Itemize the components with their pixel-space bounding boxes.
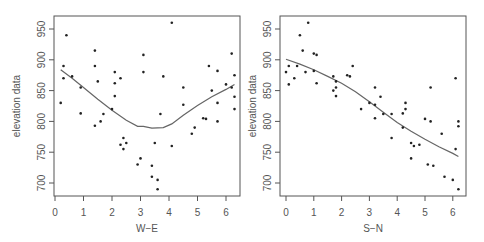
data-point bbox=[62, 65, 65, 68]
y-tick-label: 700 bbox=[262, 174, 273, 191]
data-point bbox=[216, 102, 219, 105]
data-point bbox=[360, 108, 363, 111]
data-point bbox=[429, 86, 432, 89]
y-tick-label: 800 bbox=[262, 113, 273, 130]
data-point bbox=[351, 65, 354, 68]
data-point bbox=[374, 86, 377, 89]
data-point bbox=[390, 137, 393, 140]
data-point bbox=[65, 34, 68, 37]
x-tick-label: 2 bbox=[339, 207, 345, 218]
data-point bbox=[410, 142, 413, 145]
data-point bbox=[315, 82, 318, 85]
data-point bbox=[216, 120, 219, 123]
data-point bbox=[94, 124, 97, 127]
data-point bbox=[233, 108, 236, 111]
data-point bbox=[335, 80, 338, 83]
data-point bbox=[216, 70, 219, 73]
data-point bbox=[390, 113, 393, 116]
data-point bbox=[454, 77, 457, 80]
data-point bbox=[191, 132, 194, 135]
data-point bbox=[335, 86, 338, 89]
data-point bbox=[136, 163, 139, 166]
data-point bbox=[142, 54, 145, 57]
data-point bbox=[114, 95, 117, 98]
y-tick-label: 950 bbox=[36, 20, 47, 37]
data-point bbox=[313, 52, 316, 55]
x-tick-label: 3 bbox=[138, 207, 144, 218]
data-point bbox=[452, 179, 455, 182]
data-point bbox=[114, 82, 117, 85]
data-point bbox=[457, 188, 460, 191]
data-point bbox=[171, 145, 174, 148]
data-point bbox=[94, 49, 97, 52]
x-tick-label: 4 bbox=[394, 207, 400, 218]
data-point bbox=[79, 86, 82, 89]
smoothing-line bbox=[61, 70, 235, 129]
data-point bbox=[162, 75, 165, 78]
data-point bbox=[225, 83, 228, 86]
data-point bbox=[332, 75, 335, 78]
smoothing-line bbox=[286, 59, 458, 156]
y-tick-label: 750 bbox=[262, 143, 273, 160]
data-point bbox=[443, 176, 446, 179]
data-point bbox=[301, 49, 304, 52]
data-point bbox=[182, 104, 185, 107]
data-point bbox=[111, 108, 114, 111]
x-tick-label: 4 bbox=[166, 207, 172, 218]
data-point bbox=[349, 75, 352, 78]
data-point bbox=[413, 145, 416, 148]
data-point bbox=[379, 96, 382, 99]
x-tick-label: 1 bbox=[81, 207, 87, 218]
plot-frame bbox=[280, 16, 466, 196]
data-point bbox=[432, 165, 435, 168]
data-point bbox=[230, 86, 233, 89]
chart-figure: 0123456700750800850900950W−Eelevation da… bbox=[0, 0, 484, 242]
data-point bbox=[402, 126, 405, 129]
panel-s-n: 0123456700750800850900950S−Nelevation da… bbox=[247, 16, 466, 234]
data-point bbox=[315, 54, 318, 57]
data-point bbox=[457, 125, 460, 128]
data-point bbox=[122, 137, 125, 140]
y-tick-label: 800 bbox=[36, 113, 47, 130]
data-point bbox=[233, 74, 236, 77]
x-axis-label: S−N bbox=[363, 223, 383, 234]
data-point bbox=[418, 144, 421, 147]
x-tick-label: 0 bbox=[283, 207, 289, 218]
data-point bbox=[307, 22, 310, 25]
data-point bbox=[293, 77, 296, 80]
data-point bbox=[404, 102, 407, 105]
x-tick-label: 1 bbox=[311, 207, 317, 218]
x-axis-label: W−E bbox=[136, 223, 158, 234]
data-point bbox=[304, 71, 307, 74]
y-tick-label: 850 bbox=[262, 82, 273, 99]
x-tick-label: 6 bbox=[450, 207, 456, 218]
data-point bbox=[202, 117, 205, 120]
data-point bbox=[114, 71, 117, 74]
data-point bbox=[193, 126, 196, 129]
x-tick-label: 3 bbox=[367, 207, 373, 218]
y-axis-label: elevation data bbox=[247, 74, 258, 137]
data-point bbox=[404, 108, 407, 111]
data-point bbox=[424, 118, 427, 121]
data-point bbox=[119, 77, 122, 80]
x-tick-label: 0 bbox=[52, 207, 58, 218]
y-tick-label: 900 bbox=[36, 51, 47, 68]
y-axis-label: elevation data bbox=[11, 74, 22, 137]
data-point bbox=[288, 83, 291, 86]
data-point bbox=[402, 112, 405, 115]
data-point bbox=[382, 113, 385, 116]
data-point bbox=[346, 74, 349, 77]
y-tick-label: 750 bbox=[36, 143, 47, 160]
data-point bbox=[440, 132, 443, 135]
plot-frame bbox=[54, 16, 240, 196]
data-point bbox=[59, 102, 62, 105]
data-point bbox=[368, 102, 371, 105]
data-point bbox=[288, 65, 291, 68]
data-point bbox=[299, 34, 302, 37]
data-point bbox=[62, 77, 65, 80]
data-point bbox=[99, 120, 102, 123]
data-point bbox=[457, 120, 460, 123]
data-point bbox=[374, 104, 377, 107]
data-point bbox=[427, 163, 430, 166]
panel-w-e: 0123456700750800850900950W−Eelevation da… bbox=[11, 16, 240, 234]
